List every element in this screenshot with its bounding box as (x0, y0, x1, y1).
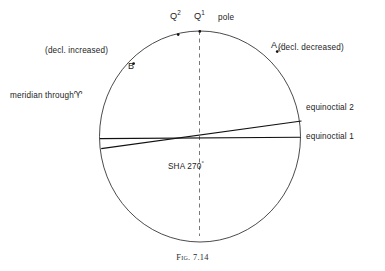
label-decl-decreased: (decl. decreased) (278, 44, 344, 53)
label-sha-value: SHA 270° (168, 163, 204, 172)
equinoctial-1-line (100, 137, 301, 138)
point-q2-marker (177, 33, 180, 36)
equinoctial-2-line (101, 121, 301, 149)
label-meridian-text: meridian through (10, 91, 74, 100)
label-q2: Q2 (170, 12, 181, 22)
label-q1-superscript: 1 (201, 9, 205, 16)
label-equinoctial-1: equinoctial 1 (306, 133, 354, 142)
aries-symbol-icon: ♈ (74, 89, 83, 100)
label-q2-superscript: 2 (177, 9, 181, 16)
label-sha-degree: ° (201, 159, 204, 166)
label-q1: Q1 (194, 12, 205, 22)
figure-caption: Fig. 7.14 (0, 253, 385, 262)
label-point-b: B (128, 62, 134, 71)
label-sha-text: SHA 270 (168, 162, 201, 171)
point-q1-marker (198, 30, 201, 33)
figure-caption-prefix: Fig. (176, 253, 190, 262)
label-pole: pole (218, 14, 234, 23)
figure-caption-number: 7.14 (193, 253, 209, 262)
label-equinoctial-2: equinoctial 2 (306, 104, 354, 113)
label-meridian-through-aries: meridian through♈ (10, 90, 83, 101)
label-point-a: A (271, 41, 277, 50)
figure-container: Q2 Q1 pole A (decl. decreased) (decl. in… (0, 0, 385, 271)
label-decl-increased: (decl. increased) (45, 47, 108, 56)
